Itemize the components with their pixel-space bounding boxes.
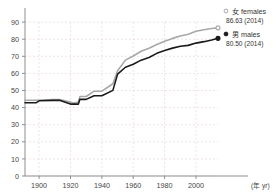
y-tick-label: 0 (15, 172, 19, 181)
legend-value-females: 86.63 (2014) (226, 17, 263, 25)
legend-value-males: 80.50 (2014) (226, 40, 263, 48)
endpoint-marker-females (216, 26, 220, 30)
chart-plot-area: 0 10 20 30 40 50 60 70 80 90 1900 1920 1… (0, 0, 280, 195)
x-tick-label: 1920 (63, 181, 79, 190)
legend-label-females: 女 females (232, 7, 267, 16)
x-tick-label: 2000 (188, 181, 204, 190)
vertical-gridlines (39, 22, 196, 176)
y-axis-tick-labels: 0 10 20 30 40 50 60 70 80 90 (11, 18, 19, 181)
y-tick-label: 90 (11, 18, 19, 27)
x-tick-label: 1960 (125, 181, 141, 190)
legend-entry-males: 男 males 80.50 (2014) (224, 30, 263, 48)
x-tick-label: 1940 (94, 181, 110, 190)
y-tick-label: 60 (11, 69, 19, 78)
filled-circle-marker-icon (224, 32, 228, 36)
x-axis-tick-labels: 1900 1920 1940 1960 1980 2000 (31, 181, 204, 190)
legend-entry-females: 女 females 86.63 (2014) (224, 7, 266, 25)
x-tick-label: 1980 (157, 181, 173, 190)
legend-label-males: 男 males (232, 30, 261, 39)
open-circle-marker-icon (224, 9, 228, 13)
y-tick-label: 80 (11, 35, 19, 44)
x-axis-unit-label: (年 yr) (251, 181, 270, 190)
y-tick-label: 10 (11, 155, 19, 164)
y-tick-label: 50 (11, 86, 19, 95)
endpoint-marker-males (216, 36, 220, 40)
life-expectancy-chart: 0 10 20 30 40 50 60 70 80 90 1900 1920 1… (0, 0, 280, 195)
y-tick-label: 20 (11, 137, 19, 146)
y-tick-label: 40 (11, 103, 19, 112)
y-tick-label: 70 (11, 52, 19, 61)
series-line-males (25, 38, 218, 104)
x-tick-label: 1900 (31, 181, 47, 190)
y-tick-label: 30 (11, 120, 19, 129)
